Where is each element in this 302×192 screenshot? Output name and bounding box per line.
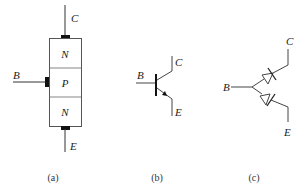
label-b: B (137, 69, 144, 81)
label-c: C (286, 35, 294, 47)
caption-b: (b) (151, 172, 163, 184)
panel-c-diode-model: C B E (c) (223, 35, 294, 184)
layer-p: P (61, 77, 69, 89)
base-contact (45, 77, 49, 87)
layer-n-bottom: N (60, 106, 69, 118)
lower-diode-lead (252, 87, 262, 94)
label-e: E (69, 140, 77, 152)
panel-a-layer-structure: N P N C B E (a) (13, 5, 82, 184)
upper-diode-lead (252, 79, 264, 87)
label-b: B (13, 69, 20, 81)
label-b: B (223, 81, 230, 93)
diagram-canvas: N P N C B E (a) C B E (b) C B (0, 0, 302, 192)
label-c: C (71, 12, 79, 24)
label-e: E (174, 106, 182, 118)
emitter-lead (271, 100, 288, 122)
panel-b-transistor-symbol: C B E (b) (136, 56, 183, 184)
upper-diode-icon (262, 73, 273, 84)
layer-n-top: N (60, 48, 69, 60)
collector-lead (273, 49, 288, 73)
caption-c: (c) (248, 172, 259, 184)
label-e: E (283, 126, 291, 138)
label-c: C (175, 56, 183, 68)
npn-transistor-figure: N P N C B E (a) C B E (b) C B (0, 0, 302, 192)
caption-a: (a) (47, 172, 58, 184)
collector-lead (157, 56, 172, 80)
